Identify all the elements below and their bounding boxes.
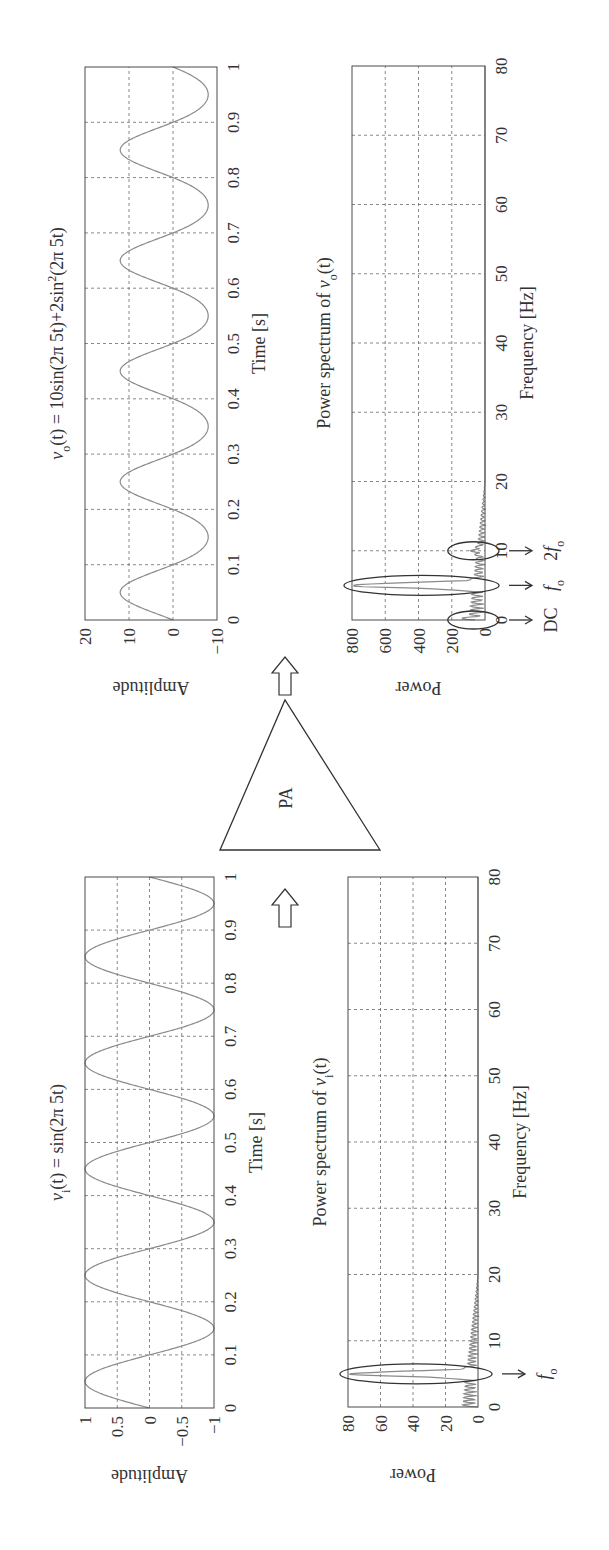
y-axis-label: Amplitude bbox=[111, 1466, 188, 1486]
x-tick-label: 30 bbox=[485, 1200, 504, 1217]
x-tick-label: 80 bbox=[492, 58, 511, 75]
x-tick-label: 10 bbox=[485, 1332, 504, 1349]
y-tick-label: 600 bbox=[376, 628, 395, 654]
peak-ellipse bbox=[340, 1364, 492, 1384]
x-tick-label: 0.1 bbox=[224, 554, 243, 575]
x-tick-label: 50 bbox=[492, 265, 511, 282]
y-tick-label: 800 bbox=[343, 628, 362, 654]
x-axis-label: Frequency [Hz] bbox=[510, 1085, 530, 1198]
y-tick-label: 0 bbox=[469, 1415, 488, 1424]
x-tick-label: 0.7 bbox=[221, 1025, 240, 1047]
y-tick-label: −1 bbox=[205, 1416, 224, 1434]
flow-arrow-icon bbox=[272, 889, 298, 927]
x-tick-label: 0.5 bbox=[221, 1132, 240, 1153]
x-tick-label: 0.8 bbox=[221, 973, 240, 994]
peak-ellipse bbox=[344, 575, 499, 595]
x-tick-label: 0.8 bbox=[224, 167, 243, 188]
vi-time-plot: 00.10.20.30.40.50.60.70.80.9110.50−0.5−1… bbox=[47, 873, 266, 1486]
x-axis-label: Time [s] bbox=[246, 1112, 266, 1173]
x-tick-label: 0.4 bbox=[221, 1184, 240, 1206]
y-tick-label: 1 bbox=[76, 1416, 95, 1425]
x-tick-label: 1 bbox=[224, 63, 243, 72]
peak-label: fo bbox=[541, 580, 567, 591]
y-tick-label: 80 bbox=[339, 1415, 358, 1432]
x-tick-label: 70 bbox=[492, 127, 511, 144]
y-tick-label: 400 bbox=[410, 628, 429, 654]
vo-power-plot: 010203040506070808006004002000Frequency … bbox=[314, 58, 567, 699]
x-tick-label: 0.5 bbox=[224, 333, 243, 354]
x-tick-label: 0.9 bbox=[224, 112, 243, 133]
x-tick-label: 60 bbox=[485, 1001, 504, 1018]
plot-title: Power spectrum of vo(t) bbox=[314, 257, 340, 428]
peak-label: fo bbox=[534, 1368, 560, 1379]
y-axis-label: Power bbox=[390, 1465, 436, 1485]
x-tick-label: 50 bbox=[485, 1067, 504, 1084]
y-tick-label: 20 bbox=[76, 628, 95, 645]
plot-title: vi(t) = sin(2π 5t) bbox=[47, 1084, 73, 1201]
vo-time-plot: 00.10.20.30.40.50.60.70.80.9120100−10Tim… bbox=[45, 63, 269, 698]
peak-label: DC bbox=[541, 607, 561, 632]
x-tick-label: 0.9 bbox=[221, 919, 240, 940]
flow-arrow-icon bbox=[272, 657, 298, 695]
x-tick-label: 0 bbox=[492, 616, 511, 625]
x-tick-label: 0.2 bbox=[221, 1291, 240, 1312]
amplifier-triangle-icon bbox=[220, 700, 380, 850]
peak-label: 2fo bbox=[541, 541, 567, 561]
x-axis-label: Time [s] bbox=[249, 313, 269, 374]
y-axis-label: Power bbox=[396, 678, 442, 698]
y-tick-label: 40 bbox=[404, 1415, 423, 1432]
x-tick-label: 10 bbox=[492, 542, 511, 559]
x-tick-label: 40 bbox=[492, 335, 511, 352]
y-tick-label: 60 bbox=[372, 1415, 391, 1432]
x-tick-label: 0.7 bbox=[224, 222, 243, 244]
x-tick-label: 70 bbox=[485, 935, 504, 952]
x-tick-label: 1 bbox=[221, 873, 240, 882]
y-tick-label: −10 bbox=[208, 628, 227, 655]
x-tick-label: 60 bbox=[492, 196, 511, 213]
x-tick-label: 80 bbox=[485, 869, 504, 886]
x-tick-label: 0.3 bbox=[224, 443, 243, 464]
y-tick-label: −0.5 bbox=[173, 1416, 192, 1447]
power-amplifier-block: PA bbox=[220, 657, 380, 927]
y-tick-label: 20 bbox=[437, 1415, 456, 1432]
amplifier-label: PA bbox=[276, 787, 296, 808]
x-tick-label: 30 bbox=[492, 404, 511, 421]
x-tick-label: 0.6 bbox=[224, 278, 243, 299]
y-tick-label: 0.5 bbox=[108, 1416, 127, 1437]
x-tick-label: 0.2 bbox=[224, 499, 243, 520]
plot-title: vo(t) = 10sin(2π 5t)+2sin2(2π 5t) bbox=[45, 227, 73, 459]
x-axis-label: Frequency [Hz] bbox=[517, 286, 537, 399]
y-axis-label: Amplitude bbox=[112, 678, 189, 698]
x-tick-label: 0 bbox=[485, 1403, 504, 1412]
y-tick-label: 10 bbox=[120, 628, 139, 645]
y-tick-label: 200 bbox=[443, 628, 462, 654]
x-tick-label: 0 bbox=[221, 1404, 240, 1413]
x-tick-label: 0 bbox=[224, 616, 243, 625]
x-tick-label: 20 bbox=[492, 473, 511, 490]
y-tick-label: 0 bbox=[164, 628, 183, 637]
x-tick-label: 0.1 bbox=[221, 1344, 240, 1365]
x-tick-label: 0.3 bbox=[221, 1238, 240, 1259]
vi-power-plot: 01020304050607080806040200Frequency [Hz]… bbox=[310, 869, 560, 1486]
x-tick-label: 0.6 bbox=[221, 1079, 240, 1100]
x-tick-label: 0.4 bbox=[224, 388, 243, 410]
pa-harmonics-figure: 00.10.20.30.40.50.60.70.80.9110.50−0.5−1… bbox=[0, 0, 609, 1550]
y-tick-label: 0 bbox=[141, 1416, 160, 1425]
plot-title: Power spectrum of vi(t) bbox=[310, 1058, 336, 1227]
x-tick-label: 40 bbox=[485, 1134, 504, 1151]
x-tick-label: 20 bbox=[485, 1266, 504, 1283]
